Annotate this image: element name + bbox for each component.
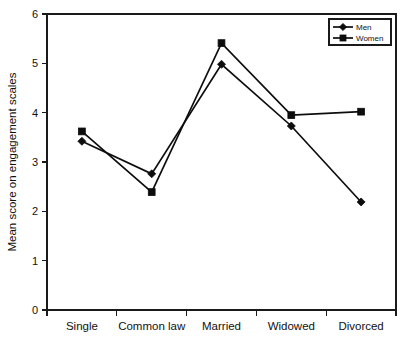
x-axis-category-label: Widowed — [268, 320, 315, 332]
chart-canvas: 0123456SingleCommon lawMarriedWidowedDiv… — [0, 0, 414, 344]
data-point-women-married — [218, 40, 225, 47]
x-axis-category-label: Married — [202, 320, 241, 332]
legend-label-women: Women — [356, 34, 383, 43]
y-axis-tick-label: 1 — [32, 255, 38, 267]
engagement-scores-line-chart: 0123456SingleCommon lawMarriedWidowedDiv… — [0, 0, 414, 344]
y-axis-tick-label: 0 — [32, 304, 38, 316]
data-point-women-single — [79, 128, 86, 135]
series-line-men — [82, 64, 361, 202]
y-axis-tick-label: 5 — [32, 57, 38, 69]
data-point-women-divorced — [358, 108, 365, 115]
legend: MenWomen — [329, 19, 391, 45]
data-point-women-common-law — [148, 189, 155, 196]
legend-marker-women — [340, 35, 346, 41]
y-axis-tick-label: 3 — [32, 156, 38, 168]
x-axis-category-label: Divorced — [338, 320, 383, 332]
x-axis-category-label: Single — [66, 320, 98, 332]
x-axis-category-label: Common law — [118, 320, 186, 332]
data-point-men-common-law — [148, 170, 156, 178]
series-men — [78, 60, 365, 206]
y-axis-tick-label: 2 — [32, 205, 38, 217]
y-axis-tick-label: 6 — [32, 8, 38, 20]
plot-frame — [47, 14, 396, 310]
legend-label-men: Men — [356, 23, 372, 32]
data-point-women-widowed — [288, 112, 295, 119]
data-point-men-single — [78, 137, 86, 145]
y-axis-tick-label: 4 — [32, 107, 38, 119]
y-axis-title: Mean score on engagement scales — [6, 72, 18, 251]
